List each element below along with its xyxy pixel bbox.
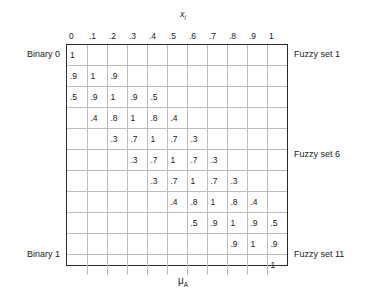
matrix-cell-r1-c1: 1 [67, 45, 87, 66]
matrix-cell-r6-c8: .3 [207, 150, 227, 171]
table-row: .3.71.7.3 [67, 171, 287, 192]
matrix-cell-r9-c6 [167, 213, 187, 234]
matrix-cell-r5-c2 [87, 129, 107, 150]
matrix-cell-r10-c8 [207, 234, 227, 255]
matrix-cell-r5-c9 [227, 129, 247, 150]
matrix-cell-r11-c11: 1 [267, 255, 287, 276]
column-header-0: 0 [66, 30, 86, 43]
matrix-cell-r1-c9 [227, 45, 247, 66]
matrix-cell-r11-c1 [67, 255, 87, 276]
matrix-cell-r9-c2 [87, 213, 107, 234]
table-row: .5.91.9.5 [67, 213, 287, 234]
matrix-cell-r9-c11: .5 [267, 213, 287, 234]
matrix-cell-r1-c11 [267, 45, 287, 66]
matrix-cell-r10-c2 [87, 234, 107, 255]
matrix-cell-r2-c3: .9 [107, 66, 127, 87]
matrix-cell-r7-c5: .3 [147, 171, 167, 192]
matrix-cell-r1-c7 [187, 45, 207, 66]
matrix-cell-r7-c11 [267, 171, 287, 192]
matrix-cell-r11-c3 [107, 255, 127, 276]
matrix-cell-r9-c1 [67, 213, 87, 234]
matrix-cell-r6-c1 [67, 150, 87, 171]
matrix-cell-r8-c1 [67, 192, 87, 213]
column-header-6: .6 [186, 30, 206, 43]
matrix-cell-r2-c9 [227, 66, 247, 87]
matrix-cell-r2-c8 [207, 66, 227, 87]
matrix-cell-r3-c11 [267, 87, 287, 108]
matrix-cell-r11-c5 [147, 255, 167, 276]
matrix-cell-r11-c9 [227, 255, 247, 276]
fuzzy-set-label-1: Fuzzy set 1 [294, 48, 340, 61]
matrix-cell-r4-c2: .4 [87, 108, 107, 129]
table-row: .5.91.9.5 [67, 87, 287, 108]
matrix-cell-r10-c7 [187, 234, 207, 255]
matrix-cell-r6-c5: .7 [147, 150, 167, 171]
matrix-cell-r11-c6 [167, 255, 187, 276]
matrix-cell-r2-c2: 1 [87, 66, 107, 87]
matrix-cell-r3-c4: .9 [127, 87, 147, 108]
table-row: 1 [67, 45, 287, 66]
matrix-cell-r7-c2 [87, 171, 107, 192]
matrix-cell-r6-c2 [87, 150, 107, 171]
table-row: .91.9 [67, 234, 287, 255]
table-row: .4.81.8.4 [67, 192, 287, 213]
matrix-cell-r4-c8 [207, 108, 227, 129]
matrix-cell-r7-c4 [127, 171, 147, 192]
top-axis-label: xi [0, 8, 366, 24]
matrix-cell-r9-c4 [127, 213, 147, 234]
matrix-cell-r6-c7: .7 [187, 150, 207, 171]
matrix-cell-r7-c7: 1 [187, 171, 207, 192]
matrix-cell-r11-c8 [207, 255, 227, 276]
matrix-cell-r1-c4 [127, 45, 147, 66]
matrix-cell-r10-c11: .9 [267, 234, 287, 255]
matrix-cell-r3-c10 [247, 87, 267, 108]
matrix-cell-r9-c10: .9 [247, 213, 267, 234]
column-header-3: .3 [126, 30, 146, 43]
matrix-cell-r7-c10 [247, 171, 267, 192]
top-axis-subscript: i [185, 14, 186, 21]
matrix-cell-r1-c8 [207, 45, 227, 66]
matrix-cell-r3-c3: 1 [107, 87, 127, 108]
bottom-axis-label: μA [0, 275, 366, 291]
binary-label-1: Binary 0 [27, 48, 60, 61]
matrix-table: 1.91.9.5.91.9.5.4.81.8.4.3.71.7.3.3.71.7… [67, 45, 287, 275]
column-header-row: 0.1.2.3.4.5.6.7.8.91 [66, 30, 286, 43]
matrix-cell-r4-c6: .4 [167, 108, 187, 129]
matrix-cell-r1-c2 [87, 45, 107, 66]
matrix-cell-r4-c10 [247, 108, 267, 129]
matrix-cell-r3-c7 [187, 87, 207, 108]
matrix-cell-r5-c10 [247, 129, 267, 150]
matrix-cell-r5-c8 [207, 129, 227, 150]
matrix-cell-r6-c4: .3 [127, 150, 147, 171]
matrix-cell-r10-c10: 1 [247, 234, 267, 255]
matrix-cell-r4-c11 [267, 108, 287, 129]
matrix-cell-r6-c6: 1 [167, 150, 187, 171]
binary-label-2: Binary 1 [27, 248, 60, 261]
matrix-cell-r8-c7: .8 [187, 192, 207, 213]
matrix-cell-r2-c7 [187, 66, 207, 87]
column-header-8: .8 [226, 30, 246, 43]
column-header-2: .2 [106, 30, 126, 43]
matrix-cell-r4-c4: 1 [127, 108, 147, 129]
matrix-cell-r7-c8: .7 [207, 171, 227, 192]
matrix-cell-r8-c10: .4 [247, 192, 267, 213]
matrix-cell-r9-c5 [147, 213, 167, 234]
matrix-cell-r10-c6 [167, 234, 187, 255]
bottom-axis-subscript: A [184, 281, 188, 288]
matrix-cell-r8-c9: .8 [227, 192, 247, 213]
matrix-cell-r8-c3 [107, 192, 127, 213]
column-header-4: .4 [146, 30, 166, 43]
matrix-cell-r7-c9: .3 [227, 171, 247, 192]
column-header-5: .5 [166, 30, 186, 43]
matrix-cell-r6-c3 [107, 150, 127, 171]
matrix-cell-r5-c6: .7 [167, 129, 187, 150]
matrix-cell-r5-c5: 1 [147, 129, 167, 150]
matrix-cell-r4-c1 [67, 108, 87, 129]
column-header-9: .9 [246, 30, 266, 43]
matrix-cell-r9-c7: .5 [187, 213, 207, 234]
matrix-cell-r4-c9 [227, 108, 247, 129]
fuzzy-set-matrix: 1.91.9.5.91.9.5.4.81.8.4.3.71.7.3.3.71.7… [66, 44, 288, 266]
fuzzy-set-label-2: Fuzzy set 6 [294, 148, 340, 161]
matrix-cell-r11-c10 [247, 255, 267, 276]
matrix-cell-r4-c7 [187, 108, 207, 129]
